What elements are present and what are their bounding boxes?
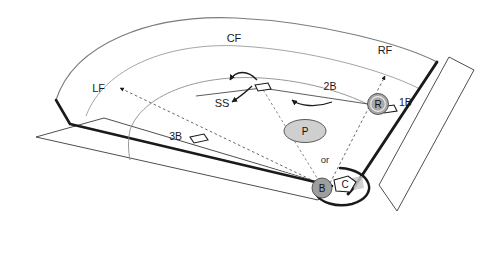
or-label: or	[321, 154, 329, 165]
left-field-label: LF	[92, 82, 105, 94]
right-field-label: RF	[378, 44, 393, 56]
pitcher-marker-label: P	[302, 126, 309, 137]
field-graphic: P C R B LF CF RF SS 1B 2B	[0, 0, 496, 255]
second-base-label: 2B	[324, 80, 337, 92]
home-plate-group: C	[334, 176, 364, 192]
runner-marker-label: R	[374, 99, 381, 110]
first-base-label: 1B	[399, 96, 412, 108]
catcher-marker-label: C	[341, 179, 348, 190]
batter-marker-label: B	[319, 183, 326, 194]
pitcher-mound: P	[284, 120, 326, 143]
center-field-label: CF	[227, 32, 242, 44]
shortstop-label: SS	[215, 97, 230, 109]
second-base-marker	[255, 83, 271, 91]
baseball-field-diagram: P C R B LF CF RF SS 1B 2B	[0, 0, 496, 255]
third-base-label: 3B	[169, 130, 182, 142]
